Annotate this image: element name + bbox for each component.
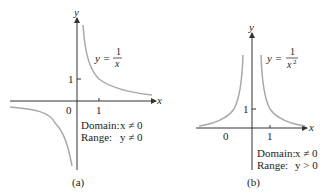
graph-a: y x 1 1 0 y = 1 x Domain: x ≠ 0 Range: y…: [10, 6, 162, 189]
y-tick-label: 1: [68, 73, 74, 85]
y-axis-label: y: [248, 21, 254, 33]
x-axis-label: x: [156, 94, 162, 106]
svg-text:1: 1: [290, 46, 295, 57]
function-label: y = 1 x 2: [266, 46, 298, 70]
figure: y x 1 1 0 y = 1 x Domain: x ≠ 0 Range: y…: [0, 0, 325, 195]
y-tick-label: 1: [243, 103, 249, 115]
svg-text:2: 2: [293, 58, 297, 66]
range-value: y > 0: [295, 159, 318, 171]
caption-a: (a): [72, 176, 85, 189]
function-label: y = 1 x: [94, 46, 122, 69]
domain-value: x ≠ 0: [120, 119, 143, 131]
range-label: Range:: [257, 159, 288, 171]
x-tick-label: 1: [96, 104, 102, 116]
curve-left-branch: [10, 107, 72, 166]
x-tick-label: 1: [267, 130, 273, 142]
origin-label: 0: [66, 104, 72, 116]
curve-left-branch: [199, 55, 243, 126]
domain-value: x ≠ 0: [295, 147, 318, 159]
origin-label: 0: [223, 130, 229, 142]
svg-text:y =: y =: [266, 52, 282, 64]
domain-label: Domain:: [81, 119, 120, 131]
y-axis-label: y: [73, 6, 79, 18]
graph-b: y x 1 1 0 y = 1 x 2 Domain: x ≠ 0 Range:…: [196, 21, 318, 189]
x-axis-label: x: [308, 121, 314, 133]
svg-text:x: x: [286, 59, 292, 70]
range-value: y ≠ 0: [120, 131, 143, 143]
caption-b: (b): [247, 176, 260, 189]
domain-label: Domain:: [257, 147, 296, 159]
svg-text:y =: y =: [94, 52, 110, 64]
svg-text:x: x: [114, 58, 120, 69]
range-label: Range:: [81, 131, 112, 143]
curve-right-branch: [261, 55, 305, 126]
svg-text:1: 1: [116, 46, 121, 57]
